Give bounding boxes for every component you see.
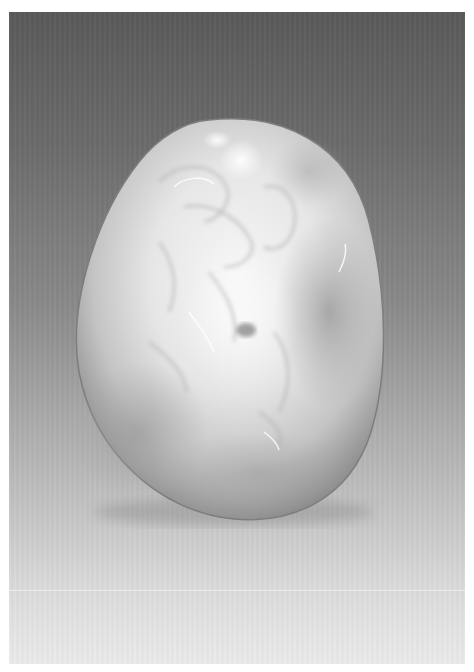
photo-frame [9, 12, 465, 664]
jade-pebble [9, 12, 465, 664]
